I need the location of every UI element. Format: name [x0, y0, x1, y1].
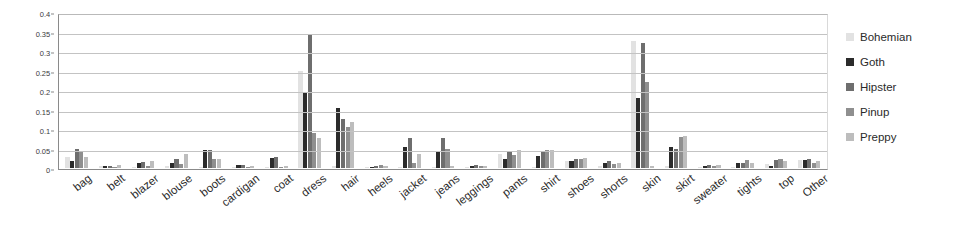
bar: [65, 157, 69, 168]
bar: [436, 152, 440, 168]
y-axis-tick-mark: [51, 53, 54, 54]
x-axis-label: skirt: [672, 172, 696, 194]
bar: [279, 167, 283, 168]
bar: [565, 161, 569, 168]
bar: [641, 43, 645, 168]
bar: [241, 165, 245, 168]
bar: [750, 163, 754, 168]
bar: [232, 167, 236, 168]
bar: [512, 155, 516, 168]
legend-item[interactable]: Goth: [846, 49, 958, 74]
bar: [731, 167, 735, 168]
legend-label: Pinup: [860, 106, 889, 118]
gridline: [59, 112, 827, 113]
bar: [545, 150, 549, 168]
bar: [432, 167, 436, 168]
y-axis-tick-label: 0: [46, 166, 50, 175]
bar: [370, 167, 374, 168]
bar: [350, 122, 354, 168]
bar: [812, 163, 816, 168]
bar: [736, 163, 740, 168]
bar: [716, 165, 720, 168]
gridline: [59, 34, 827, 35]
legend-item[interactable]: Pinup: [846, 99, 958, 124]
bar: [199, 167, 203, 168]
bar: [607, 161, 611, 168]
gridline: [59, 151, 827, 152]
bar: [141, 162, 145, 168]
x-axis-label: dress: [299, 172, 329, 199]
bar: [579, 159, 583, 168]
plot-area-wrapper: [58, 14, 828, 170]
x-axis-label: shoes: [564, 172, 596, 200]
bar: [636, 98, 640, 168]
bar: [803, 160, 807, 168]
bar: [265, 167, 269, 168]
bar: [236, 165, 240, 168]
gridline: [59, 53, 827, 54]
bar: [79, 152, 83, 168]
bar: [332, 166, 336, 168]
gridline: [59, 131, 827, 132]
y-axis-tick-label: 0.05: [36, 146, 50, 155]
bar: [598, 166, 602, 168]
gridline: [59, 73, 827, 74]
y-axis-tick-mark: [51, 92, 54, 93]
bar: [408, 138, 412, 168]
y-axis-tick-mark: [51, 170, 54, 171]
bar: [603, 163, 607, 168]
x-axis-label: jacket: [398, 172, 429, 200]
bar: [412, 163, 416, 168]
bar: [108, 166, 112, 168]
bar: [150, 161, 154, 168]
bar: [274, 157, 278, 168]
x-axis-label: leggings: [454, 172, 495, 208]
bar: [75, 149, 79, 168]
bar: [517, 150, 521, 168]
bar: [346, 127, 350, 168]
legend-label: Hipster: [860, 81, 896, 93]
bar: [465, 167, 469, 168]
x-axis-labels: bagbeltblazerblousebootscardigancoatdres…: [59, 172, 829, 248]
bar: [117, 165, 121, 168]
legend-item[interactable]: Bohemian: [846, 24, 958, 49]
bar: [645, 82, 649, 168]
bar: [683, 136, 687, 168]
chart-legend: BohemianGothHipsterPinupPreppy: [846, 24, 958, 149]
legend-swatch-icon: [846, 33, 854, 41]
bar: [303, 92, 307, 168]
bar: [816, 161, 820, 168]
bar: [250, 166, 254, 168]
bar: [479, 166, 483, 168]
bar: [84, 157, 88, 168]
legend-swatch-icon: [846, 108, 854, 116]
legend-item[interactable]: Hipster: [846, 74, 958, 99]
bar: [765, 164, 769, 168]
bar: [217, 159, 221, 168]
bar: [741, 163, 745, 168]
legend-item[interactable]: Preppy: [846, 124, 958, 149]
bar: [631, 41, 635, 168]
bar: [336, 108, 340, 168]
bar: [137, 163, 141, 168]
y-axis-tick-label: 0.1: [40, 127, 50, 136]
bar: [498, 154, 502, 168]
bar: [441, 138, 445, 168]
y-axis-tick-mark: [51, 150, 54, 151]
bar: [541, 152, 545, 168]
x-axis-label: tights: [734, 172, 763, 198]
bar: [474, 165, 478, 168]
bar: [398, 167, 402, 168]
y-axis: 00.050.10.150.20.250.30.350.4: [20, 14, 54, 170]
bar: [298, 71, 302, 168]
bar: [483, 166, 487, 168]
bar: [470, 166, 474, 168]
y-axis-tick-label: 0.4: [40, 10, 50, 19]
bar: [383, 166, 387, 168]
bar: [707, 165, 711, 168]
bar: [698, 167, 702, 168]
bar: [246, 167, 250, 168]
x-axis-label: belt: [105, 172, 127, 193]
bar: [745, 160, 749, 168]
bar: [112, 167, 116, 168]
